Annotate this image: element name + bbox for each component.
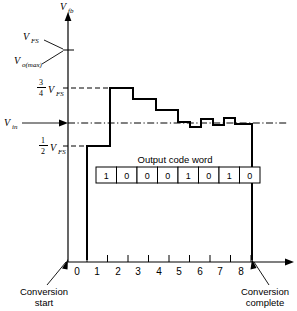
conversion-complete-line2: complete bbox=[246, 297, 285, 308]
code-word-bit-4: 1 bbox=[186, 171, 191, 181]
half-vfs-label: V bbox=[50, 142, 58, 153]
output-code-word-title: Output code word bbox=[138, 154, 213, 165]
v-in-label-group: V in bbox=[4, 117, 68, 131]
x-axis-tick-label-2: 2 bbox=[115, 266, 121, 277]
x-axis-tick-label-0: 0 bbox=[74, 266, 80, 277]
v-in-label: V bbox=[4, 117, 12, 128]
conversion-start-leader-line bbox=[47, 262, 66, 285]
three-quarter-denominator: 4 bbox=[39, 89, 43, 98]
three-quarter-vfs-label: V bbox=[48, 84, 56, 95]
x-axis-tick-label-3: 3 bbox=[135, 266, 141, 277]
half-vfs-subscript: FS bbox=[57, 148, 66, 156]
code-word-bit-7: 0 bbox=[247, 171, 252, 181]
reference-lines-group bbox=[63, 88, 288, 146]
x-axis-tick-label-5: 5 bbox=[176, 266, 182, 277]
conversion-complete-annotation: Conversion complete bbox=[241, 259, 289, 308]
code-word-bit-3: 0 bbox=[165, 171, 170, 181]
code-word-bit-6: 1 bbox=[227, 171, 232, 181]
axes-group bbox=[65, 12, 294, 265]
half-numerator: 1 bbox=[41, 136, 45, 145]
x-axis-arrowhead bbox=[285, 259, 294, 266]
code-word-bit-0: 1 bbox=[104, 171, 109, 181]
adc-conversion-figure: V fb V FS V o(max) 3 4 V FS 1 2 V FS bbox=[0, 0, 297, 311]
v-o-max-leader-line bbox=[42, 51, 63, 64]
output-code-word-group: Output code word 1 0 0 0 1 0 1 0 bbox=[96, 154, 260, 183]
code-word-bit-2: 0 bbox=[145, 171, 150, 181]
v-fs-leader-line bbox=[44, 40, 63, 49]
code-word-bit-1: 0 bbox=[124, 171, 129, 181]
code-word-bit-5: 0 bbox=[206, 171, 211, 181]
figure-canvas: V fb V FS V o(max) 3 4 V FS 1 2 V FS bbox=[0, 0, 297, 311]
conversion-start-line1: Conversion bbox=[20, 286, 68, 297]
y-axis-label-subscript: fb bbox=[68, 7, 74, 15]
three-quarter-vfs-subscript: FS bbox=[55, 90, 64, 98]
x-axis-tick-label-8: 8 bbox=[238, 266, 244, 277]
y-axis-label-group: V fb bbox=[60, 1, 74, 15]
v-in-label-subscript: in bbox=[12, 123, 18, 131]
conversion-start-line2: start bbox=[35, 297, 54, 308]
v-fs-label-subscript: FS bbox=[30, 37, 39, 45]
v-o-max-label-subscript: o(max) bbox=[22, 61, 42, 69]
x-axis-tick-label-6: 6 bbox=[197, 266, 203, 277]
y-axis-label: V bbox=[60, 1, 68, 12]
x-axis-ticks-group bbox=[87, 255, 251, 262]
half-denominator: 2 bbox=[41, 147, 45, 156]
three-quarter-vfs-label-group: 3 4 V FS bbox=[37, 78, 64, 98]
x-axis-tick-label-4: 4 bbox=[156, 266, 162, 277]
v-o-max-label: V bbox=[14, 55, 22, 66]
x-axis-tick-labels-group: 0 1 2 3 4 5 6 7 8 bbox=[74, 266, 244, 277]
v-in-arrowhead bbox=[59, 120, 68, 127]
code-word-cells bbox=[96, 167, 260, 183]
x-axis-tick-label-7: 7 bbox=[217, 266, 223, 277]
conversion-start-annotation: Conversion start bbox=[20, 259, 68, 308]
full-scale-marker-group: V FS V o(max) bbox=[14, 31, 74, 69]
conversion-complete-line1: Conversion bbox=[241, 286, 289, 297]
three-quarter-numerator: 3 bbox=[39, 78, 43, 87]
conversion-complete-leader-line bbox=[254, 262, 269, 285]
half-vfs-label-group: 1 2 V FS bbox=[39, 136, 66, 156]
x-axis-tick-label-1: 1 bbox=[94, 266, 100, 277]
conversion-start-arrowhead bbox=[62, 259, 68, 270]
v-fs-label: V bbox=[23, 31, 31, 42]
